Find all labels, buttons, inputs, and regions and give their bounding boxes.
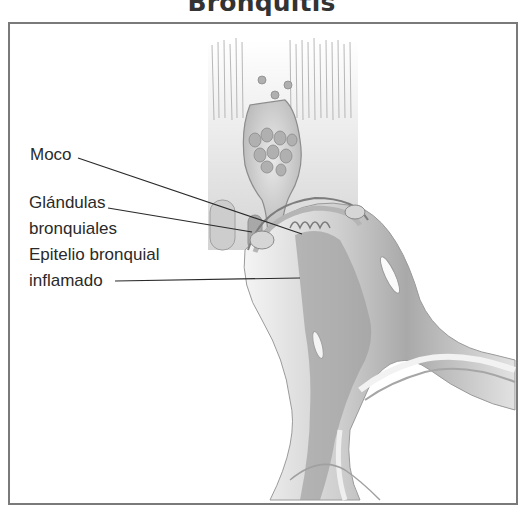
label-glands-line2: bronquiales (29, 219, 117, 239)
label-epithelium-line1: Epitelio bronquial (29, 245, 159, 265)
bronchus-tube (244, 198, 515, 500)
label-glands-line1: Glándulas (29, 193, 106, 213)
label-mucus: Moco (30, 145, 72, 165)
label-epithelium-line2: inflamado (29, 271, 103, 291)
